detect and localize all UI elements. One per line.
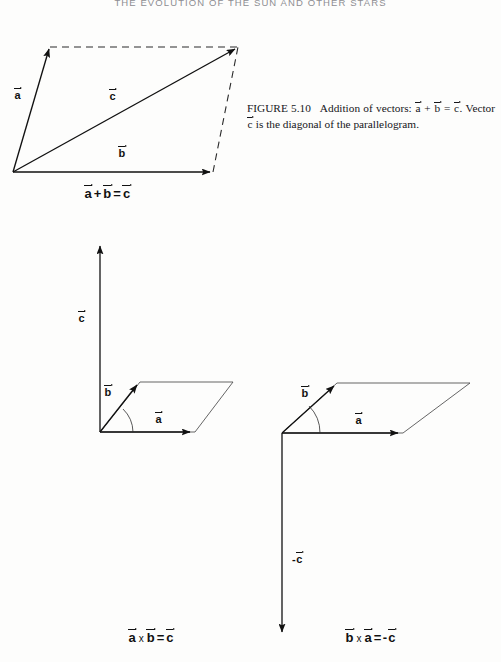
figure-line-art [0, 0, 501, 662]
label-vector-b-fig3: b [301, 387, 309, 399]
angle-arc-right [309, 406, 320, 433]
dashed-side-right [213, 47, 238, 172]
running-head: THE EVOLUTION OF THE SUN AND OTHER STARS [0, 0, 501, 8]
caption-text-1: Addition of vectors: [320, 102, 415, 114]
label-vector-negative-c-fig3: -c [292, 553, 303, 565]
caption-text-3: is the diagonal of the parallelogram. [253, 118, 419, 130]
label-vector-a-fig1: a [14, 89, 21, 101]
equation-plus: + [92, 186, 103, 201]
caption-text-2: . Vector [460, 102, 495, 114]
caption-vector-c-2: c [247, 119, 253, 130]
label-vector-a-fig2: a [155, 413, 162, 425]
parallelogram-outline-left [100, 382, 233, 432]
label-vector-b-fig2: b [104, 386, 112, 398]
vector-symbol-b-left: b [104, 387, 112, 398]
equation-vector-b: b [103, 187, 112, 200]
vector-symbol-a-left: a [155, 414, 162, 425]
equation-left-equals: = [155, 630, 166, 645]
label-vector-a-fig3: a [355, 414, 362, 426]
equation-left-vector-a: a [128, 631, 136, 644]
label-vector-c-fig2: c [78, 312, 85, 324]
figure-number: FIGURE 5.10 [247, 102, 311, 114]
parallelogram-outline-right [282, 383, 470, 433]
caption-equals: = [441, 102, 454, 114]
angle-arc-left [123, 409, 133, 432]
label-vector-b-fig1: b [118, 147, 126, 159]
equation-right-vector-c: c [388, 631, 396, 644]
caption-vector-a: a [415, 103, 421, 114]
vector-symbol-c-down: c [296, 554, 303, 565]
equation-right-vector-b: b [345, 631, 354, 644]
caption-vector-c: c [454, 103, 460, 114]
equation-left-cross: x [136, 633, 146, 644]
caption-vector-b: b [434, 103, 441, 114]
figure-cross-product-right-art [282, 383, 470, 632]
equation-right-vector-a: a [364, 631, 372, 644]
vector-a-arrow [13, 49, 49, 172]
equation-left-vector-b: b [146, 631, 155, 644]
equation-vector-c: c [122, 187, 130, 200]
caption-plus: + [421, 102, 434, 114]
equation-cross-product-right: bxa=-c [345, 630, 396, 645]
textbook-figure-page: THE EVOLUTION OF THE SUN AND OTHER STARS [0, 0, 501, 662]
equation-right-cross: x [354, 633, 364, 644]
equation-left-vector-c: c [166, 631, 174, 644]
figure-caption: FIGURE 5.10Addition of vectors: a + b = … [247, 101, 495, 132]
vector-symbol-a: a [14, 90, 21, 101]
figure-cross-product-left-art [100, 246, 233, 432]
equation-cross-product-left: axb=c [128, 630, 174, 645]
equation-vector-addition: a+b=c [84, 186, 131, 201]
vector-symbol-a-right: a [355, 415, 362, 426]
equation-vector-a: a [84, 187, 92, 200]
vector-symbol-c-up: c [78, 313, 85, 324]
equation-equals: = [112, 186, 123, 201]
equation-right-equals: = [372, 630, 383, 645]
vector-symbol-b: b [118, 148, 126, 159]
label-vector-c-fig1: c [109, 90, 116, 102]
vector-symbol-c: c [109, 91, 116, 102]
vector-symbol-b-right: b [301, 388, 309, 399]
